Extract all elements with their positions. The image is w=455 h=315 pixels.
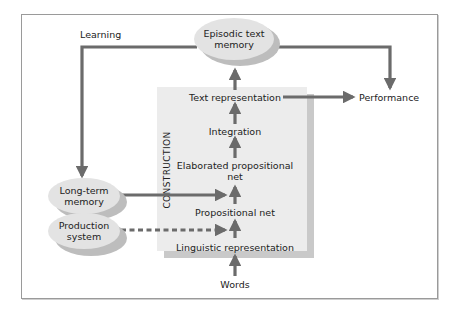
learning-label: Learning <box>80 29 121 40</box>
learning-arrow <box>82 47 197 176</box>
linguistic-representation-node: Linguistic representation <box>172 242 298 253</box>
integration-node: Integration <box>195 126 275 137</box>
episodic-memory-node: Episodic text memory <box>194 18 274 60</box>
episodic-to-performance-arrow <box>273 47 390 88</box>
elaborated-propositional-net-node: Elaborated propositional net <box>175 160 295 182</box>
propositional-net-node: Propositional net <box>185 207 285 218</box>
text-representation-node: Text representation <box>187 92 283 103</box>
long-term-memory-node: Long-term memory <box>48 178 120 214</box>
production-system-node: Production system <box>48 213 120 249</box>
words-node: Words <box>210 279 260 290</box>
performance-node: Performance <box>359 92 419 103</box>
